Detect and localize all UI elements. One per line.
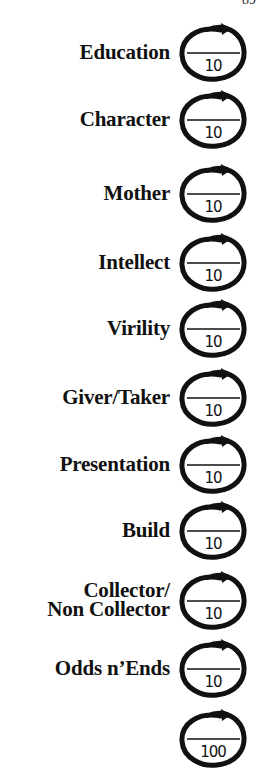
score-max: 10 (177, 124, 249, 142)
score-field[interactable]: 10 (177, 433, 249, 495)
category-label: Collector/Non Collector (47, 581, 170, 619)
category-row: Virility 10 (0, 297, 264, 359)
page-number: 89 (242, 0, 256, 8)
score-field[interactable]: 10 (177, 366, 249, 428)
score-max: 10 (177, 535, 249, 553)
category-label: Giver/Taker (62, 388, 170, 407)
score-field[interactable]: 10 (177, 499, 249, 561)
score-field[interactable]: 10 (177, 637, 249, 699)
score-max: 100 (177, 743, 249, 761)
category-label: Presentation (60, 455, 170, 474)
score-field[interactable]: 10 (177, 162, 249, 224)
category-label: Character (80, 110, 170, 129)
category-label: Odds n’Ends (55, 659, 170, 678)
category-row: Odds n’Ends 10 (0, 637, 264, 699)
category-label: Intellect (98, 253, 170, 272)
category-row: Giver/Taker 10 (0, 366, 264, 428)
score-max: 10 (177, 267, 249, 285)
category-row: Mother 10 (0, 162, 264, 224)
score-max: 10 (177, 605, 249, 623)
score-max: 10 (177, 469, 249, 487)
score-max: 10 (177, 57, 249, 75)
category-label: Build (122, 521, 170, 540)
score-field[interactable]: 10 (177, 21, 249, 83)
total-score-row: 100 (0, 707, 264, 769)
score-field[interactable]: 10 (177, 569, 249, 631)
score-field[interactable]: 10 (177, 231, 249, 293)
score-max: 10 (177, 402, 249, 420)
category-label: Education (80, 43, 170, 62)
category-row: Collector/Non Collector 10 (0, 569, 264, 631)
category-row: Intellect 10 (0, 231, 264, 293)
score-max: 10 (177, 673, 249, 691)
score-field[interactable]: 10 (177, 88, 249, 150)
score-max: 10 (177, 333, 249, 351)
score-field[interactable]: 10 (177, 297, 249, 359)
category-row: Education 10 (0, 21, 264, 83)
category-label: Mother (104, 184, 170, 203)
category-row: Character 10 (0, 88, 264, 150)
category-row: Build 10 (0, 499, 264, 561)
score-max: 10 (177, 198, 249, 216)
category-label: Virility (107, 319, 170, 338)
category-row: Presentation 10 (0, 433, 264, 495)
total-score-field[interactable]: 100 (177, 707, 249, 769)
